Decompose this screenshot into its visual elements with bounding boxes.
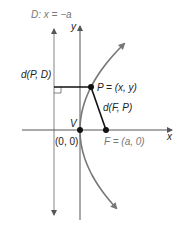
- focus-label: F = (a, 0): [104, 136, 145, 147]
- directrix-label: D: x = −a: [31, 9, 72, 20]
- vertex-point: [77, 127, 83, 133]
- distance-to-directrix-label: d(P, D): [21, 69, 51, 80]
- x-axis-label: x: [166, 131, 173, 142]
- point-p-label: P = (x, y): [97, 82, 137, 93]
- parabola-diagram: D: x = −a y x d(P, D) P = (x, y) d(F, P)…: [0, 0, 184, 233]
- distance-to-focus-label: d(F, P): [103, 102, 132, 113]
- vertex-label: V: [70, 118, 78, 129]
- focus-point: [103, 127, 109, 133]
- y-axis-label: y: [70, 21, 77, 32]
- point-p: [88, 84, 94, 90]
- vertex-coords-label: (0, 0): [55, 136, 78, 147]
- right-angle-marker: [54, 87, 61, 93]
